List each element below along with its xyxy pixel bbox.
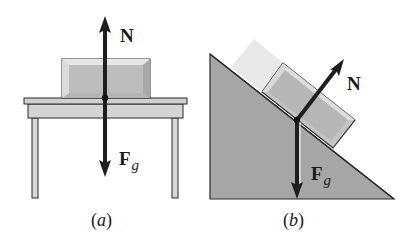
caption-a-letter: a: [97, 210, 106, 230]
contact-point-a: [102, 95, 108, 101]
gravity-label-sub-b: g: [324, 172, 332, 188]
table-leg-right: [172, 118, 178, 198]
normal-force-label-a: N: [120, 25, 134, 47]
contact-point-b: [294, 117, 300, 123]
caption-b-close: ): [298, 210, 304, 230]
panel-a: [24, 16, 187, 198]
panel-b: [210, 39, 394, 199]
table-leg-left: [32, 118, 38, 198]
caption-b: (b): [283, 210, 304, 231]
caption-a-close: ): [106, 210, 112, 230]
gravity-label-main-b: F: [311, 163, 323, 184]
gravity-force-label-b: Fg: [311, 163, 330, 185]
force-diagram-figure: N Fg (a) N Fg (b): [0, 0, 411, 242]
gravity-force-label-a: Fg: [119, 148, 138, 170]
caption-b-letter: b: [289, 210, 298, 230]
gravity-label-main-a: F: [119, 148, 131, 169]
normal-force-label-b: N: [347, 73, 361, 95]
gravity-label-sub-a: g: [132, 157, 140, 173]
diagram-canvas: [0, 0, 411, 242]
caption-a: (a): [91, 210, 112, 231]
